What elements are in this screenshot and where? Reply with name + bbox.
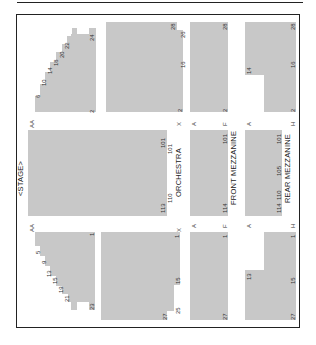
seat-number: 2 <box>290 109 296 112</box>
seat-number: 5 <box>35 251 41 254</box>
seat-number: 24 <box>89 34 95 41</box>
seat-number: 101 <box>222 134 228 144</box>
row-label: A <box>246 122 252 126</box>
section-label-front-mezzanine: FRONT MEZZANINE <box>230 131 238 205</box>
seat-number: 1 <box>222 235 228 238</box>
seat-number: 110 <box>167 193 173 203</box>
seat-number: 27 <box>290 313 296 320</box>
seat-number: 26 <box>180 31 186 38</box>
seat-number: 113 <box>160 203 166 213</box>
seat-number: 13 <box>246 273 252 280</box>
seat-number: 2 <box>89 110 95 113</box>
section-label-rear-mezzanine: REAR MEZZANINE <box>284 134 292 203</box>
section-label-orchestra: ORCHESTRA <box>175 148 183 197</box>
top-rule <box>17 2 303 3</box>
row-label: F <box>222 224 228 228</box>
seat-number: 27 <box>222 313 228 320</box>
seat-number: 15 <box>175 277 181 284</box>
row-label: X <box>176 122 182 126</box>
seat-number: 10 <box>41 79 47 86</box>
center-orchestra-section[interactable] <box>28 130 167 216</box>
row-label: H <box>290 224 296 228</box>
seat-number: 27 <box>162 313 168 320</box>
seat-number: 25 <box>175 307 181 314</box>
seat-number: 110 <box>276 190 282 200</box>
row-label: A <box>191 122 197 126</box>
upper-front-mezzanine-section[interactable] <box>190 22 228 112</box>
seat-number: 1 <box>174 235 180 238</box>
seat-number: 14 <box>47 67 53 74</box>
stage-label: <STAGE> <box>17 161 25 196</box>
seat-number: 16 <box>290 61 296 68</box>
seat-number: 28 <box>222 23 228 30</box>
seat-number: 101 <box>160 138 166 148</box>
seat-number: 1 <box>290 235 296 238</box>
row-label: F <box>222 122 228 126</box>
seat-number: 22 <box>64 42 70 49</box>
seat-number: 28 <box>290 23 296 30</box>
seat-number: 14 <box>246 67 252 74</box>
seat-number: 114 <box>276 203 282 213</box>
seat-number: 23 <box>89 303 95 310</box>
lower-front-mezzanine-section[interactable] <box>190 232 228 320</box>
seat-number: 28 <box>170 23 176 30</box>
seat-number: 16 <box>180 61 186 68</box>
seat-number: 18 <box>53 59 59 66</box>
seat-number: 21 <box>64 295 70 302</box>
seat-number: 2 <box>222 109 228 112</box>
seat-number: 13 <box>46 270 52 277</box>
seat-number: 101 <box>167 144 173 154</box>
seat-number: 6 <box>35 95 41 98</box>
seat-number: 101 <box>276 134 282 144</box>
row-label: H <box>290 122 296 126</box>
seat-number: 20 <box>59 51 65 58</box>
seat-number: 9 <box>41 261 47 264</box>
seat-number: 2 <box>177 109 183 112</box>
seat-number: 105 <box>276 166 282 176</box>
row-label: A <box>191 224 197 228</box>
seat-number: 114 <box>222 203 228 213</box>
seat-number: 1 <box>89 233 95 236</box>
seat-number: 19 <box>58 286 64 293</box>
row-label: AA <box>29 120 35 128</box>
seat-number: 15 <box>52 277 58 284</box>
seat-number: 15 <box>290 277 296 284</box>
row-label: A <box>246 224 252 228</box>
row-label: AA <box>29 224 35 232</box>
